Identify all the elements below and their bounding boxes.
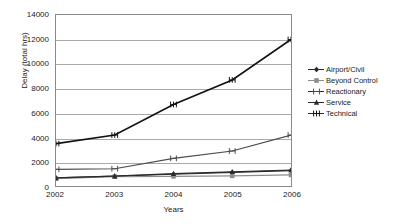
series-line-technical <box>56 40 291 144</box>
y-axis-tick-label: 0 <box>5 183 49 192</box>
legend-item-service[interactable]: Service <box>308 97 392 108</box>
data-point-triangle <box>314 100 319 105</box>
y-axis-tick-label: 2000 <box>5 158 49 167</box>
legend-label: Airport/Civil <box>326 64 364 75</box>
y-axis-tick-label: 4000 <box>5 133 49 142</box>
data-point-asterisk <box>288 37 291 43</box>
data-point-diamond <box>314 67 319 72</box>
data-point-square <box>230 174 235 179</box>
y-axis-tick-label: 6000 <box>5 108 49 117</box>
series-line-reactionary <box>56 135 291 169</box>
data-point-asterisk <box>314 111 320 117</box>
x-axis-tick-label: 2005 <box>224 190 242 199</box>
x-axis-tick-labels: 20022003200420052006 <box>55 190 292 204</box>
legend-marker-diamond-icon <box>308 64 324 75</box>
line-chart: Delay (total hrs) 0200040006000800010000… <box>0 0 395 224</box>
data-point-cross <box>288 132 291 138</box>
x-axis-tick-label: 2006 <box>283 190 301 199</box>
data-point-cross <box>56 167 59 173</box>
y-axis-tick-labels: 02000400060008000100001200014000 <box>5 0 49 224</box>
data-point-square <box>289 173 291 178</box>
series-lines <box>56 15 291 187</box>
data-point-cross <box>112 166 118 172</box>
plot-area <box>55 14 292 187</box>
y-axis-tick-label: 12000 <box>5 34 49 43</box>
data-point-square <box>314 78 319 83</box>
legend-item-technical[interactable]: Technical <box>308 108 392 119</box>
x-axis-tick-label: 2002 <box>46 190 64 199</box>
legend-label: Technical <box>326 108 357 119</box>
legend-item-beyond-control[interactable]: Beyond Control <box>308 75 392 86</box>
x-axis-tick-label: 2003 <box>105 190 123 199</box>
y-axis-tick-label: 10000 <box>5 59 49 68</box>
legend-label: Reactionary <box>326 86 366 97</box>
x-axis-tick-label: 2004 <box>165 190 183 199</box>
legend-marker-triangle-icon <box>308 97 324 108</box>
legend-label: Beyond Control <box>326 75 378 86</box>
data-point-asterisk <box>171 102 177 108</box>
legend-item-reactionary[interactable]: Reactionary <box>308 86 392 97</box>
data-point-cross <box>171 155 177 161</box>
legend: Airport/CivilBeyond ControlReactionarySe… <box>308 64 392 119</box>
y-axis-tick-label: 8000 <box>5 84 49 93</box>
legend-marker-square-icon <box>308 75 324 86</box>
legend-item-airport-civil[interactable]: Airport/Civil <box>308 64 392 75</box>
legend-label: Service <box>326 97 351 108</box>
x-axis-title: Years <box>55 205 292 214</box>
y-axis-tick-label: 14000 <box>5 10 49 19</box>
data-point-asterisk <box>56 141 59 147</box>
legend-marker-asterisk-icon <box>308 108 324 119</box>
data-point-asterisk <box>112 132 118 138</box>
data-point-cross <box>314 89 320 95</box>
data-point-cross <box>229 148 235 154</box>
legend-marker-cross-icon <box>308 86 324 97</box>
